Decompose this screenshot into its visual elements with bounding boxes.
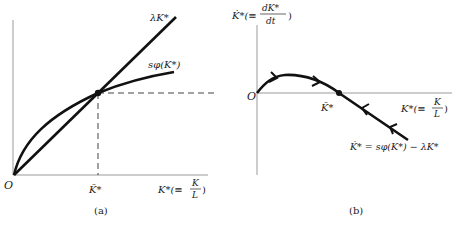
- s-phi-label: sφ(K*): [148, 59, 181, 70]
- panel-b-origin-label: O: [247, 90, 256, 103]
- solow-growth-diagram: λK* sφ(K*) O K̄* K*(≡ K L ) (a) K̇*(≡ dK…: [0, 0, 456, 228]
- panel-b-equilibrium-point: [336, 90, 342, 96]
- x-axis-label-denominator: L: [433, 109, 440, 119]
- panel-b-y-axis-label: K̇*(≡ dK* dt ): [231, 3, 292, 26]
- y-axis-label-numerator: dK*: [262, 3, 279, 13]
- panel-a-caption: (a): [94, 205, 108, 216]
- panel-b-x-axis-label: K*(≡ K L ): [400, 97, 448, 119]
- lambda-k-label: λK*: [149, 12, 169, 23]
- x-axis-label-denominator: L: [191, 190, 198, 200]
- y-axis-label-close: ): [288, 10, 292, 21]
- x-axis-label-close: ): [444, 103, 448, 114]
- panel-b-equilibrium-label: K̄*: [320, 102, 333, 113]
- panel-a-equilibrium-point: [95, 90, 101, 96]
- x-axis-label-numerator: K: [433, 97, 442, 107]
- panel-a-origin-label: O: [4, 179, 13, 192]
- s-phi-curve: [14, 72, 174, 175]
- x-axis-label-close: ): [202, 184, 206, 195]
- panel-b-caption: (b): [349, 205, 363, 216]
- panel-a-equilibrium-label: K̄*: [88, 184, 101, 195]
- panel-a: λK* sφ(K*) O K̄* K*(≡ K L ) (a): [4, 12, 216, 216]
- x-axis-label-main: K*(≡: [157, 184, 183, 195]
- panel-b: K̇*(≡ dK* dt ) O K̄* K*(≡ K L ) K̇* = sφ…: [231, 3, 452, 216]
- y-axis-label-main: K̇*(≡: [231, 10, 257, 21]
- x-axis-label-main: K*(≡: [400, 103, 426, 114]
- x-axis-label-numerator: K: [191, 178, 200, 188]
- lambda-k-line: [14, 17, 176, 175]
- y-axis-label-denominator: dt: [266, 16, 276, 26]
- panel-a-x-axis-label: K*(≡ K L ): [157, 178, 206, 200]
- equation-label: K̇* = sφ(K*) − λK*: [349, 141, 439, 152]
